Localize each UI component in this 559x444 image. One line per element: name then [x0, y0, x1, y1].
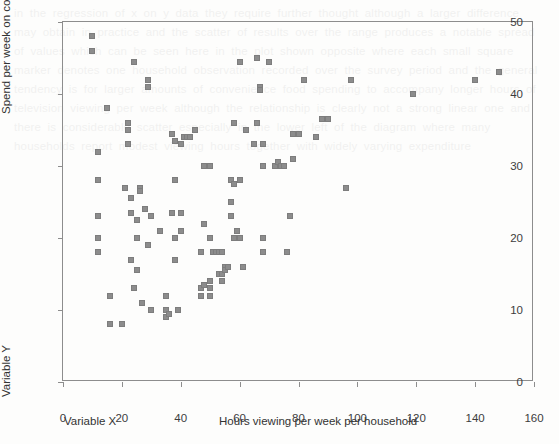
x-tick-label: 140 — [466, 412, 485, 424]
scatter-point — [228, 213, 234, 219]
scatter-point — [237, 59, 243, 65]
x-tick-label: 40 — [174, 412, 187, 424]
scatter-point — [175, 307, 181, 313]
scatter-point — [89, 33, 95, 39]
scatter-point — [95, 249, 101, 255]
scatter-point — [178, 141, 184, 147]
x-tick-label: 80 — [292, 412, 305, 424]
scatter-point — [234, 228, 240, 234]
scatter-point — [410, 91, 416, 97]
scatter-point — [207, 278, 213, 284]
scatter-point — [472, 77, 478, 83]
scatter-point — [166, 311, 172, 317]
scatter-point — [125, 141, 131, 147]
y-tick-mark — [58, 166, 63, 167]
figure-page: in the regression of x on y data they re… — [0, 0, 559, 444]
scatter-point — [260, 163, 266, 169]
y-axis-title: Spend per week on convenience food (£) — [0, 96, 12, 114]
scatter-point — [290, 156, 296, 162]
x-tick-label: 20 — [115, 412, 128, 424]
scatter-point — [198, 293, 204, 299]
scatter-point — [251, 141, 257, 147]
scatter-point — [254, 120, 260, 126]
x-tick-mark — [122, 382, 123, 387]
x-tick-mark — [299, 382, 300, 387]
y-tick-mark — [58, 238, 63, 239]
x-tick-mark — [357, 382, 358, 387]
x-tick-mark — [534, 382, 535, 387]
y-variable-label: Variable Y — [0, 345, 12, 397]
scatter-point — [260, 249, 266, 255]
scatter-point — [148, 307, 154, 313]
scatter-point — [254, 55, 260, 61]
scatter-point — [128, 257, 134, 263]
scatter-point — [131, 285, 137, 291]
x-tick-mark — [416, 382, 417, 387]
y-tick-label: 20 — [510, 232, 523, 244]
scatter-point — [257, 87, 263, 93]
y-tick-label: 10 — [510, 304, 523, 316]
scatter-point — [134, 217, 140, 223]
scatter-point — [187, 134, 193, 140]
scatter-point — [198, 249, 204, 255]
scatter-point — [313, 134, 319, 140]
y-tick-label: 50 — [510, 16, 523, 28]
scatter-point — [134, 267, 140, 273]
scatter-point — [172, 235, 178, 241]
scatter-point — [260, 141, 266, 147]
x-tick-label: 120 — [407, 412, 426, 424]
scatter-point — [201, 221, 207, 227]
scatter-point — [219, 249, 225, 255]
y-tick-label: 40 — [510, 88, 523, 100]
y-tick-mark — [58, 310, 63, 311]
scatter-point — [125, 120, 131, 126]
scatter-point — [169, 210, 175, 216]
scatter-point — [178, 228, 184, 234]
x-tick-label: 0 — [60, 412, 66, 424]
scatter-point — [496, 69, 502, 75]
scatter-point — [95, 177, 101, 183]
scatter-point — [172, 177, 178, 183]
scatter-point — [125, 127, 131, 133]
x-tick-mark — [181, 382, 182, 387]
scatter-point — [287, 213, 293, 219]
scatter-point — [301, 77, 307, 83]
scatter-point — [325, 116, 331, 122]
scatter-point — [145, 242, 151, 248]
scatter-point — [172, 257, 178, 263]
scatter-point — [207, 235, 213, 241]
scatter-point — [207, 285, 213, 291]
x-tick-mark — [475, 382, 476, 387]
scatter-point — [122, 185, 128, 191]
scatter-point — [281, 163, 287, 169]
scatter-point — [119, 321, 125, 327]
scatter-point — [343, 185, 349, 191]
scatter-point — [145, 84, 151, 90]
scatter-point — [237, 177, 243, 183]
x-tick-mark — [240, 382, 241, 387]
x-variable-label: Variable X — [64, 415, 116, 427]
scatter-point — [228, 199, 234, 205]
scatter-point — [260, 235, 266, 241]
scatter-point — [142, 206, 148, 212]
y-tick-label: 30 — [510, 160, 523, 172]
scatter-point — [139, 300, 145, 306]
scatter-point — [163, 293, 169, 299]
scatter-point — [207, 293, 213, 299]
scatter-point — [89, 48, 95, 54]
scatter-point — [128, 210, 134, 216]
y-tick-label: 0 — [517, 376, 523, 388]
scatter-point — [128, 195, 134, 201]
scatter-point — [243, 127, 249, 133]
scatter-point — [192, 127, 198, 133]
scatter-point — [266, 59, 272, 65]
scatter-point — [296, 131, 302, 137]
scatter-point — [231, 120, 237, 126]
x-tick-label: 160 — [524, 412, 543, 424]
scatter-point — [107, 321, 113, 327]
x-axis-title: Hours viewing per week per household — [219, 415, 417, 427]
scatter-point — [95, 235, 101, 241]
scatter-point — [131, 59, 137, 65]
scatter-point — [157, 228, 163, 234]
scatter-point — [137, 188, 143, 194]
